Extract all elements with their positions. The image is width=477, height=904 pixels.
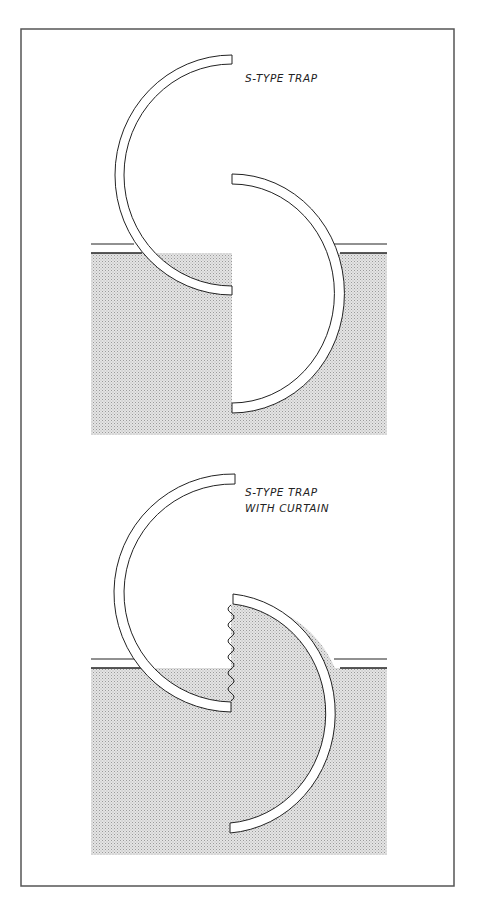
panel-s-type-trap-with-curtain: S-TYPE TRAP WITH CURTAIN — [91, 474, 387, 855]
panel-label-line-2: WITH CURTAIN — [245, 502, 329, 514]
panel-label-line-1: S-TYPE TRAP — [245, 486, 318, 498]
panel-label: S-TYPE TRAP — [245, 72, 318, 84]
panel-s-type-trap: S-TYPE TRAP — [91, 55, 387, 435]
trap-diagram-figure: S-TYPE TRAP S-TYPE TRAP WITH CURTAIN — [0, 0, 477, 904]
